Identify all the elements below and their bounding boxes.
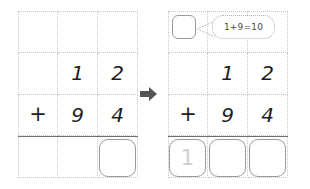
grid-cell-addend1-c[interactable]: 2 — [248, 53, 288, 95]
grid-cell-addend1-a[interactable] — [168, 53, 208, 95]
cell-text: 9 — [71, 105, 84, 125]
carry-box[interactable] — [172, 15, 196, 39]
grid-cell-answer-a[interactable] — [18, 136, 58, 178]
grid-cell-addend2-b[interactable]: 9 — [208, 95, 248, 137]
cell-text: 2 — [261, 63, 274, 83]
right-arrow-icon — [140, 86, 158, 102]
cell-text: 2 — [111, 63, 124, 83]
cell-text: 4 — [261, 105, 274, 125]
grid-cell-carry-tens[interactable] — [58, 11, 98, 53]
hint-bubble: 1+9=10 — [212, 15, 275, 39]
grid-cell-carry-ones[interactable] — [18, 11, 58, 53]
panel-after: 1 2 + 9 4 1+9=10 1 — [168, 11, 288, 178]
grid-cell-addend2-c[interactable]: 4 — [98, 95, 138, 137]
panel-before: 1 2 + 9 4 — [18, 11, 138, 178]
cell-text: 1 — [71, 63, 84, 83]
worksheet-diagram: 1 2 + 9 4 1 2 + 9 4 — [0, 0, 310, 189]
grid-cell-addend1-b[interactable]: 1 — [208, 53, 248, 95]
plus-sign: + — [179, 104, 197, 125]
answer-box-units-after[interactable] — [249, 139, 286, 177]
cell-text: 1 — [221, 63, 234, 83]
grid-cell-addend2-c[interactable]: 4 — [248, 95, 288, 137]
grid-cell-addend1-c[interactable]: 2 — [98, 53, 138, 95]
grid-cell-addend1-a[interactable] — [18, 53, 58, 95]
sum-rule-before — [18, 136, 138, 137]
grid-cell-operator[interactable]: + — [168, 95, 208, 137]
cell-text: 4 — [111, 105, 124, 125]
grid-cell-addend2-b[interactable]: 9 — [58, 95, 98, 137]
hint-bubble-text: 1+9=10 — [224, 23, 263, 32]
answer-box-tens-after[interactable] — [209, 139, 246, 177]
grid-cell-operator[interactable]: + — [18, 95, 58, 137]
grid-cell-answer-b[interactable] — [58, 136, 98, 178]
grid-cell-addend1-b[interactable]: 1 — [58, 53, 98, 95]
answer-box-hundreds-after[interactable]: 1 — [169, 139, 206, 177]
grid-cell-carry-units[interactable] — [98, 11, 138, 53]
plus-sign: + — [29, 104, 47, 125]
answer-box-units-before[interactable] — [99, 139, 136, 177]
answer-box-value: 1 — [181, 148, 194, 169]
cell-text: 9 — [221, 105, 234, 125]
sum-rule-after — [168, 136, 288, 137]
